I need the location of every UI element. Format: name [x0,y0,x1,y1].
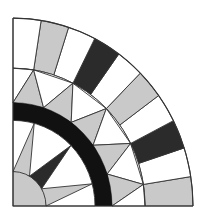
compass-quarter-svg [0,0,206,219]
quilt-compass-figure [0,0,206,219]
